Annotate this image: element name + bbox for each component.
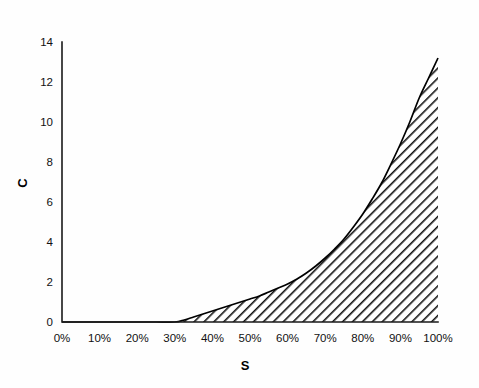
chart-canvas: 02468101214 0%10%20%30%40%50%60%70%80%90… [0,0,479,388]
x-axis-tick-label: 20% [126,332,149,344]
y-axis-tick-label: 4 [47,236,54,248]
y-axis-tick-label: 14 [40,36,53,48]
x-axis-tick-label: 40% [201,332,224,344]
y-axis-tick-label: 10 [40,116,53,128]
y-axis-tick-label: 12 [40,76,53,88]
x-axis-tick-label: 70% [314,332,337,344]
y-axis-tick-label: 0 [47,316,53,328]
x-axis-tick-label: 90% [389,332,412,344]
x-axis-title: S [241,358,250,373]
y-axis-tick-label: 2 [47,276,53,288]
x-axis-tick-label: 60% [276,332,299,344]
y-axis-title: C [15,178,30,188]
y-axis-tick-label: 6 [47,196,53,208]
x-axis-tick-label: 80% [351,332,374,344]
x-axis-tick-label: 0% [54,332,71,344]
chart-figure: 02468101214 0%10%20%30%40%50%60%70%80%90… [0,0,479,388]
x-axis-tick-label: 50% [238,332,261,344]
x-axis-tick-label: 10% [88,332,111,344]
x-axis-tick-label: 30% [163,332,186,344]
x-axis-tick-label: 100% [423,332,452,344]
y-axis-tick-label: 8 [47,156,53,168]
